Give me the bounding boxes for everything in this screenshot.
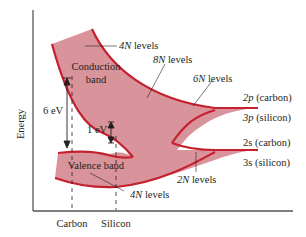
label-4n-levels-top: 4N levels — [119, 40, 158, 51]
x-tick-silicon: Silicon — [101, 218, 132, 229]
conduction-band-label-1: Conduction — [72, 61, 122, 72]
band-diagram: Energy Carbon Silicon Conduction band Va… — [0, 0, 306, 237]
valence-band-label: Valence band — [68, 160, 125, 171]
leader-6n — [193, 81, 212, 106]
x-tick-carbon: Carbon — [57, 218, 89, 229]
label-2s-carbon: 2s (carbon) — [243, 137, 291, 149]
y-axis-label: Energy — [15, 108, 26, 139]
label-4n-levels-bottom: 4N levels — [130, 189, 169, 200]
label-6n-levels: 6N levels — [193, 73, 232, 84]
gap-label-carbon: 6 eV — [43, 105, 64, 116]
label-3s-silicon: 3s (silicon) — [243, 157, 290, 169]
gap-label-silicon: 1 eV — [87, 124, 108, 135]
label-2p-carbon: 2p (carbon) — [243, 92, 292, 104]
label-8n-levels: 8N levels — [153, 54, 192, 65]
conduction-band-label-2: band — [86, 74, 107, 85]
label-2n-levels: 2N levels — [177, 174, 216, 185]
label-3p-silicon: 3p (silicon) — [242, 112, 292, 124]
